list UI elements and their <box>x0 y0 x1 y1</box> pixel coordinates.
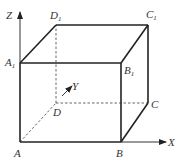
edge-A-D <box>20 103 56 142</box>
labels: Z X Y A B C D A1 B1 C1 D1 <box>4 8 176 159</box>
vertex-label-D1: D1 <box>49 9 61 23</box>
diagram-svg: Z X Y A B C D A1 B1 C1 D1 <box>0 0 177 162</box>
vertex-label-A: A <box>13 147 21 159</box>
cuboid-diagram: Z X Y A B C D A1 B1 C1 D1 <box>0 0 177 162</box>
y-axis-arrow <box>62 86 72 96</box>
vertex-label-D: D <box>52 106 61 118</box>
z-axis-label: Z <box>6 9 13 21</box>
edge-A1-D1 <box>20 25 56 63</box>
y-axis-label: Y <box>72 80 80 92</box>
vertex-label-C: C <box>151 98 159 110</box>
x-axis-label: X <box>167 136 176 148</box>
vertex-label-A1: A1 <box>4 56 15 70</box>
vertex-label-B: B <box>116 147 123 159</box>
visible-edges <box>20 25 148 142</box>
vertex-label-C1: C1 <box>146 8 157 22</box>
edge-B-C <box>121 103 148 142</box>
vertex-label-B1: B1 <box>124 64 134 78</box>
edge-B1-C1 <box>121 25 148 63</box>
